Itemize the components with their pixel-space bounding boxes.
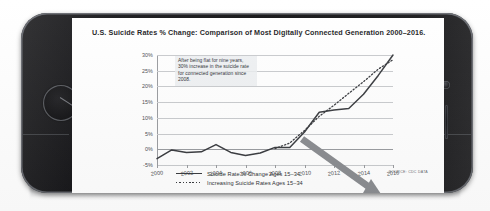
y-axis-tick-label: 20%: [142, 83, 153, 89]
legend-item-dotted[interactable]: Increasing Suicide Rates Ages 15–34: [176, 178, 303, 187]
x-axis-tick-mark: [157, 165, 158, 168]
flat-then-rise-callout: After being flat for nine years, 30% inc…: [175, 56, 257, 86]
y-axis-tick-label: 15%: [142, 99, 153, 105]
legend-item-solid[interactable]: Suicide Rate % Change Ages 15–34: [176, 169, 303, 178]
x-axis-tick-mark: [393, 165, 394, 168]
photograph-scene: U.S. Suicide Rates % Change: Comparison …: [0, 0, 490, 211]
legend-swatch-solid-icon: [176, 170, 202, 178]
x-axis-tick-label: 2000: [150, 169, 163, 176]
y-axis-tick-label: 0%: [145, 146, 153, 152]
y-axis-tick-label: 30%: [142, 52, 153, 58]
x-axis-tick-mark: [187, 165, 188, 168]
smartphone-device: U.S. Suicide Rates % Change: Comparison …: [21, 13, 473, 193]
y-axis-tick-label: -5%: [143, 162, 153, 168]
chart-source-note: SOURCE: CDC DATA: [389, 170, 428, 174]
chart-card: U.S. Suicide Rates % Change: Comparison …: [72, 18, 444, 193]
phone-screen[interactable]: U.S. Suicide Rates % Change: Comparison …: [72, 18, 444, 193]
x-axis-tick-mark: [275, 165, 276, 168]
y-axis-tick-label: 5%: [145, 131, 153, 137]
y-axis-tick-label: 10%: [142, 115, 153, 121]
legend-label-solid: Suicide Rate % Change Ages 15–34: [207, 171, 300, 177]
home-button-glint: [60, 97, 73, 106]
chart-title: U.S. Suicide Rates % Change: Comparison …: [92, 29, 432, 37]
chart-legend: Suicide Rate % Change Ages 15–34 Increas…: [176, 169, 303, 187]
downward-trend-arrow: [297, 135, 389, 193]
x-axis-tick-mark: [216, 165, 217, 168]
x-axis-tick-mark: [246, 165, 247, 168]
y-axis-tick-label: 25%: [142, 68, 153, 74]
antenna-band-left: [23, 134, 69, 135]
legend-swatch-dotted-icon: [176, 179, 202, 187]
earpiece-speaker: [445, 105, 448, 139]
legend-label-dotted: Increasing Suicide Rates Ages 15–34: [207, 180, 303, 186]
